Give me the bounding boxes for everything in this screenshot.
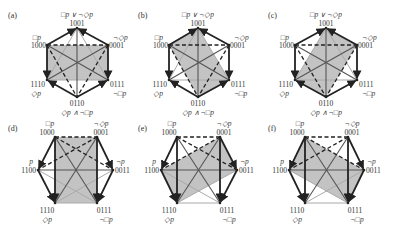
node-0110 [197,96,200,99]
edge-0110-1110 [48,81,77,97]
panel-d: (d)1000□p1100p1110◇p0001¬◇p0011¬p0111¬□p [8,119,130,224]
node-formula-label: ¬◇p [234,33,249,42]
node-0011 [112,169,115,172]
node-code-label: 0111 [220,206,235,215]
node-1000 [46,44,49,47]
panel-label: (b) [138,11,148,20]
node-code-label: 0011 [366,166,381,175]
node-formula-label: □p ∨ ¬◇p [310,10,342,19]
edge-0001-0011 [97,137,112,169]
node-0110 [325,96,328,99]
node-0111 [347,202,350,205]
node-0111 [356,79,359,82]
node-formula-label: ¬p [367,157,376,166]
node-0111 [228,79,231,82]
node-1100 [37,169,40,172]
node-formula-label: ¬□p [234,89,248,98]
node-code-label: 0011 [115,166,130,175]
node-code-label: 0111 [359,80,374,89]
node-code-label: 0001 [109,41,124,50]
panel-label: (c) [268,11,277,20]
node-1110 [176,202,179,205]
node-0011 [236,169,239,172]
node-code-label: 1110 [162,206,177,215]
node-code-label: 0001 [217,128,232,137]
node-code-label: 1001 [319,19,334,28]
node-formula-label: ¬□p [362,89,376,98]
node-formula-label: ¬◇p [113,33,128,42]
node-code-label: 0110 [70,99,85,108]
panel-label: (f) [268,124,276,133]
node-1110 [54,202,57,205]
edge-1000-1100 [39,137,55,169]
node-1110 [168,79,171,82]
node-code-label: 1000 [31,41,46,50]
edge-0110-0111 [77,81,107,97]
node-formula-label: ¬p [240,157,249,166]
node-formula-label: ¬□p [113,89,127,98]
node-code-label: 1110 [279,80,294,89]
node-code-label: 1001 [191,19,206,28]
node-formula-label: ◇p [279,89,289,98]
node-formula-label: ¬□p [350,215,364,224]
panel-c: (c)1000□p1001□p ∨ ¬◇p1110◇p0001¬◇p0111¬□… [268,10,377,117]
node-code-label: 1110 [153,80,168,89]
node-formula-label: p [151,157,156,166]
node-code-label: 0110 [191,99,206,108]
node-formula-label: □p ∨ ¬◇p [182,10,214,19]
node-0111 [219,202,222,205]
node-formula-label: □p [281,33,290,42]
node-formula-label: ¬◇p [345,119,360,128]
panel-e: (e)1000□p1100p1110◇p0001¬◇p0011¬p0111¬□p [138,119,254,224]
node-formula-label: ¬◇p [217,119,232,128]
node-code-label: 0001 [345,128,360,137]
node-code-label: 1110 [40,206,55,215]
node-formula-label: ¬◇p [362,33,377,42]
node-formula-label: □p [33,33,42,42]
node-1110 [304,202,307,205]
node-1100 [160,169,163,172]
node-code-label: 0111 [348,206,363,215]
node-formula-label: ◇p [292,215,302,224]
node-formula-label: □p ∨ ¬◇p [61,10,93,19]
node-formula-label: p [28,157,33,166]
node-code-label: 1000 [153,41,168,50]
node-1100 [288,169,291,172]
node-code-label: 1100 [144,166,159,175]
panel-a: (a)1000□p1001□p ∨ ¬◇p1110◇p0001¬◇p0111¬□… [8,10,128,117]
node-code-label: 0110 [319,99,334,108]
node-formula-label: ◇p ∧ ¬□p [182,108,214,117]
node-code-label: 0011 [239,166,254,175]
node-code-label: 1110 [290,206,305,215]
node-0111 [107,79,110,82]
panel-label: (a) [8,11,17,20]
node-code-label: 1100 [272,166,287,175]
node-code-label: 1000 [40,128,55,137]
node-formula-label: □p [46,119,55,128]
panel-f: (f)1000□p1100p1110◇p0001¬◇p0011¬p0111¬□p [268,119,381,224]
node-formula-label: ¬p [116,157,125,166]
node-code-label: 1000 [279,41,294,50]
node-formula-label: p [279,157,284,166]
node-0111 [96,202,99,205]
node-code-label: 1000 [290,128,305,137]
node-formula-label: ◇p [153,89,163,98]
node-code-label: 0111 [231,80,246,89]
panel-b: (b)1000□p1001□p ∨ ¬◇p1110◇p0001¬◇p0111¬□… [138,10,249,117]
node-formula-label: ¬□p [99,215,113,224]
node-code-label: 0111 [97,206,112,215]
node-0110 [76,96,79,99]
node-0011 [363,169,366,172]
node-formula-label: ◇p ∧ ¬□p [310,108,342,117]
node-formula-label: ◇p [164,215,174,224]
node-1110 [46,79,49,82]
node-formula-label: ¬□p [222,215,236,224]
node-formula-label: ¬◇p [94,119,109,128]
node-formula-label: ◇p ∧ ¬□p [61,108,93,117]
node-formula-label: □p [168,119,177,128]
node-1000 [294,44,297,47]
node-formula-label: ◇p [31,89,41,98]
node-code-label: 1100 [21,166,36,175]
modal-hexagon-figure: (a)1000□p1001□p ∨ ¬◇p1110◇p0001¬◇p0111¬□… [0,0,395,235]
node-code-label: 0111 [110,80,125,89]
